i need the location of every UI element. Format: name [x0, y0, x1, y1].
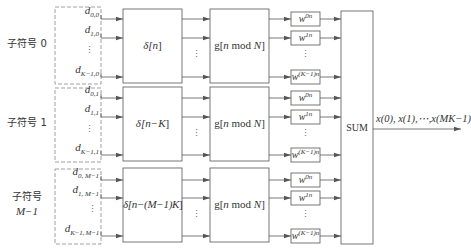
ellipsis-weights-1: ⋮ [301, 131, 309, 135]
weight-0-0: w0n [291, 12, 320, 24]
gate-mod: mod [229, 198, 254, 210]
gate-label-2: g[n mod N] [210, 198, 269, 210]
input-d-0-1: d0,1 [58, 83, 99, 98]
ellipsis-weights-2: ⋮ [301, 212, 309, 216]
weight-sup: 1n [305, 31, 312, 39]
ellipsis-mid-1: ⋮ [192, 131, 200, 135]
input-sub: K−1,1 [81, 148, 99, 156]
delay-label-1: δ[n−K] [123, 117, 182, 129]
weight-sup: 1n [305, 110, 312, 118]
subsymbol-label-2-line2: M−1 [2, 204, 52, 218]
ellipsis-inputs-0: ⋮ [85, 48, 93, 52]
delay-prefix: δ[ [123, 198, 132, 210]
weight-sup: 0n [305, 12, 312, 20]
weight-sup: 0n [305, 91, 312, 99]
subsymbol-label-0-text: 子符号 0 [7, 38, 47, 49]
delay-label-0: δ[n] [123, 39, 182, 51]
subsymbol-label-1-text: 子符号 1 [7, 117, 47, 128]
ellipsis-weights-0: ⋮ [301, 52, 309, 56]
subsymbol-label-2-line1: 子符号 [2, 190, 52, 204]
weight-2-1: w1n [291, 191, 320, 203]
subsymbol-label-1: 子符号 1 [2, 116, 52, 130]
input-sub: K−1,0 [81, 70, 99, 78]
gate-close: ] [261, 198, 265, 210]
gate-prefix: g[ [214, 117, 223, 129]
delay-prefix: δ[ [136, 117, 145, 129]
ellipsis-inputs-2: ⋮ [88, 207, 96, 211]
gate-prefix: g[ [214, 39, 223, 51]
weight-2-k1: w(K−1)n [291, 229, 320, 241]
weight-sup: 1n [305, 191, 312, 199]
ellipsis-mid-2: ⋮ [192, 212, 200, 216]
input-sub: K−1, M−1 [70, 229, 99, 237]
input-d-1-0: d1,0 [58, 23, 99, 38]
sum-label: SUM [341, 122, 373, 133]
output-label: x(0), x(1),⋯,x(MK−1) [376, 112, 471, 124]
weight-1-0: w0n [291, 91, 320, 103]
input-sub: 1, M−1 [78, 190, 99, 198]
weight-sup: (K−1)n [298, 229, 319, 237]
delay-close: ] [179, 198, 182, 210]
gate-mod: mod [229, 39, 254, 51]
gate-mod: mod [229, 117, 254, 129]
weight-2-0: w0n [291, 173, 320, 185]
input-sub: 0, M−1 [78, 172, 99, 180]
input-d-0-m1: d0, M−1 [56, 165, 99, 180]
input-d-k1-m1: dK−1, M−1 [56, 222, 99, 237]
ellipsis-mid-0: ⋮ [192, 52, 200, 56]
delay-arg: n−(M−1)K [132, 198, 179, 210]
input-d-1-m1: d1, M−1 [56, 183, 99, 198]
input-d-k1-1: dK−1,1 [56, 141, 99, 156]
weight-1-k1: w(K−1)n [291, 148, 320, 160]
delay-close: ] [166, 117, 170, 129]
weight-sup: 0n [305, 173, 312, 181]
gate-prefix: g[ [214, 198, 223, 210]
gate-label-0: g[n mod N] [210, 39, 269, 51]
subsymbol-label-0: 子符号 0 [2, 37, 52, 51]
weight-sup: (K−1)n [298, 70, 319, 78]
subsymbol-label-2: 子符号 M−1 [2, 190, 52, 218]
input-sub: 1,1 [90, 109, 99, 117]
delay-close: ] [158, 39, 162, 51]
input-sub: 0,1 [90, 90, 99, 98]
input-d-1-1: d1,1 [58, 102, 99, 117]
weight-sup: (K−1)n [298, 148, 319, 156]
ellipsis-inputs-1: ⋮ [85, 127, 93, 131]
input-sub: 1,0 [90, 30, 99, 38]
delay-prefix: δ[ [143, 39, 152, 51]
weight-1-1: w1n [291, 110, 320, 122]
gate-close: ] [261, 117, 265, 129]
weight-0-k1: w(K−1)n [291, 70, 320, 82]
delay-label-2: δ[n−(M−1)K] [123, 198, 182, 210]
weight-0-1: w1n [291, 31, 320, 43]
delay-arg: n−K [145, 117, 165, 129]
gate-label-1: g[n mod N] [210, 117, 269, 129]
input-sub: 0,0 [90, 11, 99, 19]
input-d-0-0: d0,0 [58, 4, 99, 19]
gate-close: ] [261, 39, 265, 51]
input-d-k1-0: dK−1,0 [56, 63, 99, 78]
